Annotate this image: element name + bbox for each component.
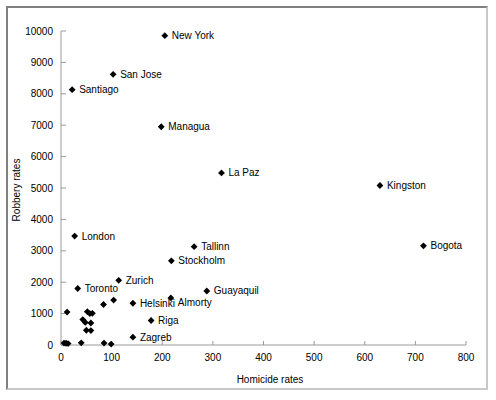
data-point-label: La Paz	[228, 167, 259, 178]
y-tick-label: 6000	[31, 151, 54, 162]
plot-area: 0100200300400500600700800 01000200030004…	[0, 0, 496, 400]
data-point-label: Zagreb	[140, 332, 172, 343]
y-tick-label: 8000	[31, 88, 54, 99]
y-tick-label: 9000	[31, 57, 54, 68]
data-point-label: Riga	[158, 315, 179, 326]
data-point-label: Almorty	[178, 297, 212, 308]
data-point-marker	[129, 334, 136, 341]
data-point-label: London	[82, 231, 115, 242]
data-point-label: San Jose	[120, 69, 162, 80]
y-axis-title: Robbery rates	[11, 159, 22, 222]
data-point-label: Kingston	[387, 180, 426, 191]
data-point-marker	[129, 300, 136, 307]
y-tick-label: 0	[47, 340, 53, 351]
y-tick-label: 10000	[25, 26, 53, 37]
data-point-label: Stockholm	[178, 255, 225, 266]
data-point-marker	[158, 123, 165, 130]
data-point-marker	[64, 309, 71, 316]
x-tick-label: 400	[255, 352, 272, 363]
data-point-marker	[71, 233, 78, 240]
x-tick-label: 800	[458, 352, 475, 363]
data-point-marker	[74, 285, 81, 292]
x-tick-label: 700	[407, 352, 424, 363]
data-point-marker	[69, 86, 76, 93]
x-tick-label: 600	[356, 352, 373, 363]
y-tick-label: 2000	[31, 277, 54, 288]
data-point-marker	[420, 242, 427, 249]
y-tick-label: 7000	[31, 120, 54, 131]
data-point-marker	[148, 317, 155, 324]
data-point-label: Bogota	[430, 240, 462, 251]
data-point-label: Guayaquil	[214, 285, 259, 296]
y-tick-labels: 0100020003000400050006000700080009000100…	[25, 26, 53, 351]
data-point-label: Zurich	[126, 275, 154, 286]
data-point-label: New York	[172, 30, 215, 41]
data-point-marker	[87, 327, 94, 334]
y-tick-label: 4000	[31, 214, 54, 225]
data-point-marker	[161, 32, 168, 39]
data-point-marker	[168, 257, 175, 264]
scatter-plot-figure: 0100200300400500600700800 01000200030004…	[0, 0, 496, 400]
data-point-label: Helsinki	[140, 298, 175, 309]
x-tick-label: 300	[205, 352, 222, 363]
x-tick-label: 500	[306, 352, 323, 363]
y-tick-label: 1000	[31, 308, 54, 319]
data-point-marker	[191, 243, 198, 250]
data-point-marker	[203, 288, 210, 295]
x-tick-label: 100	[103, 352, 120, 363]
data-point-label: Toronto	[85, 283, 119, 294]
x-tick-labels: 0100200300400500600700800	[58, 352, 475, 363]
data-point-marker	[377, 182, 384, 189]
data-point-marker	[110, 71, 117, 78]
data-point-label: Managua	[168, 121, 210, 132]
data-markers-group	[61, 32, 427, 347]
x-axis-title: Homicide rates	[237, 374, 304, 385]
scatter-plot-svg: 0100200300400500600700800 01000200030004…	[0, 0, 496, 400]
data-point-marker	[110, 297, 117, 304]
data-point-marker	[87, 320, 94, 327]
data-point-marker	[218, 170, 225, 177]
x-tick-label: 200	[154, 352, 171, 363]
data-point-marker	[108, 341, 115, 348]
point-labels-group: New YorkSan JoseSantiagoManaguaLa PazKin…	[79, 30, 462, 342]
y-tick-label: 3000	[31, 245, 54, 256]
data-point-label: Tallinn	[201, 241, 229, 252]
data-point-marker	[100, 301, 107, 308]
data-point-label: Santiago	[79, 84, 119, 95]
x-tick-label: 0	[58, 352, 64, 363]
y-tick-label: 5000	[31, 183, 54, 194]
